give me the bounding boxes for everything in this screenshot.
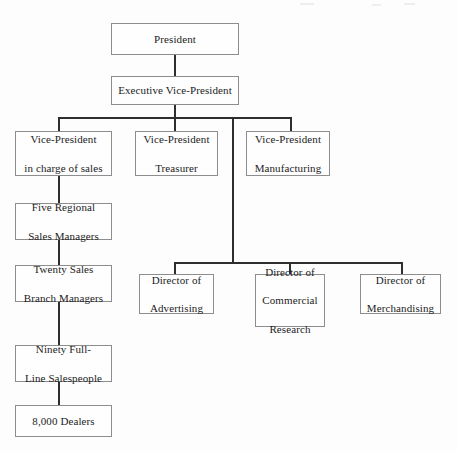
connector-regional-to-branch [58,240,60,265]
node-twenty-sales-branch-managers[interactable]: Twenty Sales Branch Managers [15,265,112,302]
scan-artifact [372,4,381,6]
node-salespeople-line1: Ninety Full- [19,342,108,356]
node-dir-advertising-line1: Director of [143,273,210,287]
node-dir-research-line1: Director of [259,265,321,279]
node-director-of-advertising[interactable]: Director of Advertising [139,274,214,314]
node-dir-merchandising-text: Director of Merchandising [364,273,437,315]
connector-salespeople-to-dealers [58,382,60,405]
node-vp-manufacturing-line1: Vice-President [250,132,326,146]
connector-bus-to-vp-treasurer [174,117,176,131]
node-vp-sales-line1: Vice-President [19,132,108,146]
node-vice-president-treasurer[interactable]: Vice-President Treasurer [135,131,218,176]
node-dir-merchandising-line2: Merchandising [364,301,437,315]
node-dir-merchandising-line1: Director of [364,273,437,287]
node-director-of-commercial-research[interactable]: Director of Commercial Research [255,274,325,327]
node-ninety-full-line-salespeople[interactable]: Ninety Full- Line Salespeople [15,345,112,382]
node-branch-text: Twenty Sales Branch Managers [19,262,108,304]
node-dir-advertising-text: Director of Advertising [143,273,210,315]
node-director-of-merchandising[interactable]: Director of Merchandising [360,274,441,314]
node-salespeople-text: Ninety Full- Line Salespeople [19,342,108,384]
connector-bus-to-vp-manufacturing [290,117,292,131]
node-executive-vice-president[interactable]: Executive Vice-President [111,76,239,105]
connector-president-to-evp [174,55,176,76]
connector-vpsales-to-regional [58,176,60,203]
node-dir-advertising-line2: Advertising [143,301,210,315]
node-dealers-line1: 8,000 Dealers [19,414,108,428]
connector-branch-to-salespeople [58,302,60,345]
connector-bus-to-directors [232,117,234,263]
scan-artifact [404,3,415,5]
node-regional-line1: Five Regional [19,200,108,214]
node-vp-manufacturing-line2: Manufacturing [250,161,326,175]
node-vp-sales-text: Vice-President in charge of sales [19,132,108,174]
node-vp-treasurer-text: Vice-President Treasurer [139,132,214,174]
node-dir-research-line2: Commercial [259,293,321,307]
node-dir-research-text: Director of Commercial Research [259,265,321,335]
node-vp-sales-line2: in charge of sales [19,161,108,175]
connector-bus-to-vp-sales [58,117,60,131]
node-dir-research-line3: Research [259,322,321,336]
node-vp-treasurer-line2: Treasurer [139,161,214,175]
node-branch-line1: Twenty Sales [19,262,108,276]
node-evp-line1: Executive Vice-President [115,83,235,97]
org-chart: President Executive Vice-President Vice-… [0,0,457,451]
node-dealers[interactable]: 8,000 Dealers [15,405,112,437]
node-vp-manufacturing-text: Vice-President Manufacturing [250,132,326,174]
node-branch-line2: Branch Managers [19,291,108,305]
scan-artifact [300,3,314,5]
node-president-line1: President [115,32,235,46]
node-vp-treasurer-line1: Vice-President [139,132,214,146]
node-vice-president-manufacturing[interactable]: Vice-President Manufacturing [246,131,330,176]
node-president[interactable]: President [111,23,239,55]
node-regional-text: Five Regional Sales Managers [19,200,108,242]
node-regional-line2: Sales Managers [19,229,108,243]
node-salespeople-line2: Line Salespeople [19,371,108,385]
node-vice-president-sales[interactable]: Vice-President in charge of sales [15,131,112,176]
node-five-regional-sales-managers[interactable]: Five Regional Sales Managers [15,203,112,240]
